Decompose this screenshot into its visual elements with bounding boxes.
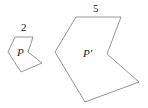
polygon-p [8,37,42,72]
polygon-label-p: P [16,46,24,58]
side-length-label-p: 2 [21,21,27,33]
polygon-label-p-prime: P′ [82,47,93,59]
polygon-p-prime [55,17,139,102]
side-length-label-p-prime: 5 [93,2,99,14]
similar-polygons-diagram: 2 P 5 P′ [0,0,148,108]
